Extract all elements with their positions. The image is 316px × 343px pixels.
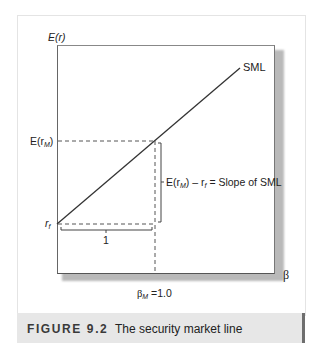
run-label: 1: [103, 235, 109, 246]
figure-number: FIGURE 9.2: [27, 322, 108, 336]
x-axis-label: β: [283, 269, 289, 281]
figure-caption: FIGURE 9.2 The security market line: [17, 313, 305, 343]
rf-tick-label: rf: [45, 218, 50, 230]
beta-m-tick-label: βM =1.0: [137, 288, 172, 300]
sml-line: [57, 68, 240, 224]
run-bracket: [61, 227, 152, 233]
y-axis-label: E(r): [48, 32, 66, 43]
figure-title: The security market line: [115, 322, 242, 336]
sml-label: SML: [243, 62, 266, 73]
slope-label: E(rM) – rf = Slope of SML: [166, 177, 281, 189]
erm-tick-label: E(rM): [30, 136, 53, 148]
rise-bracket: [158, 143, 164, 222]
